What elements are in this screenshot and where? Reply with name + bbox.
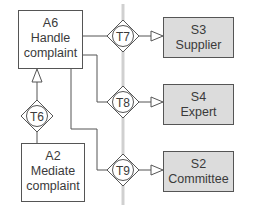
transaction-label: T6 xyxy=(30,110,44,124)
actor-code: A2 xyxy=(45,149,60,163)
transaction-t9[interactable]: T9 xyxy=(107,154,139,186)
actor-code: A6 xyxy=(43,16,58,30)
transaction-t6[interactable]: T6 xyxy=(21,100,53,132)
actor-name-line1: Mediate xyxy=(31,164,76,178)
transaction-label: T8 xyxy=(116,96,130,110)
actor-name-line1: Handle xyxy=(31,31,71,45)
external-name: Committee xyxy=(168,172,228,186)
actor-a6[interactable]: A6 Handle complaint xyxy=(19,11,83,69)
transaction-t8[interactable]: T8 xyxy=(107,86,139,118)
external-code: S4 xyxy=(191,90,206,104)
arrowhead-up-icon xyxy=(32,69,42,82)
arrowhead-right-icon xyxy=(151,165,163,175)
external-name: Supplier xyxy=(176,38,222,52)
external-s4[interactable]: S4 Expert xyxy=(164,85,234,125)
actor-a2[interactable]: A2 Mediate complaint xyxy=(22,144,85,202)
transaction-label: T7 xyxy=(116,30,130,44)
external-name: Expert xyxy=(180,105,217,119)
arrowhead-right-icon xyxy=(151,31,163,41)
external-s3[interactable]: S3 Supplier xyxy=(164,18,234,58)
actor-name-line2: complaint xyxy=(26,179,80,193)
diagram-canvas: A6 Handle complaint A2 Mediate complaint… xyxy=(0,0,259,209)
external-code: S2 xyxy=(191,157,206,171)
external-code: S3 xyxy=(191,23,206,37)
external-s2[interactable]: S2 Committee xyxy=(164,152,234,192)
actor-name-line2: complaint xyxy=(24,46,78,60)
transaction-label: T9 xyxy=(116,164,130,178)
connector-a6-t8 xyxy=(82,55,108,102)
transaction-t7[interactable]: T7 xyxy=(107,20,139,52)
arrowhead-right-icon xyxy=(151,97,163,107)
